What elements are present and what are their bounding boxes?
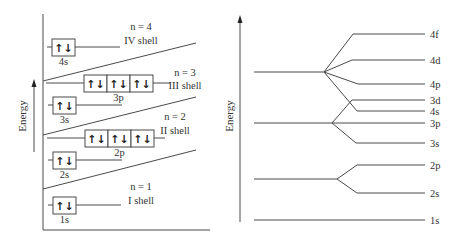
level-label-3p: 3p bbox=[430, 118, 441, 129]
electron-pair-icon: ↑↓ bbox=[109, 78, 127, 91]
left-energy-arrowhead-icon bbox=[32, 79, 37, 87]
orbital-4s: ↑↓ 4s bbox=[47, 39, 120, 67]
level-label-4f: 4f bbox=[430, 29, 439, 40]
level-label-4d: 4d bbox=[430, 55, 441, 66]
shell-3-name-label: III shell bbox=[169, 80, 202, 91]
orbital-label: 4s bbox=[59, 56, 68, 67]
orbital-label: 3s bbox=[60, 114, 69, 125]
level-label-3d: 3d bbox=[430, 95, 441, 106]
level-label-1s: 1s bbox=[430, 215, 439, 226]
orbital-3s: ↑↓ 3s bbox=[48, 97, 122, 125]
shell-4-n-label: n = 4 bbox=[130, 21, 152, 32]
level-label-4s: 4s bbox=[430, 106, 439, 117]
left-energy-label: Energy bbox=[16, 100, 28, 132]
shell-1-name-label: I shell bbox=[128, 195, 154, 206]
electron-pair-icon: ↑↓ bbox=[86, 78, 104, 91]
orbital-1s: ↑↓ 1s bbox=[48, 197, 121, 225]
electron-pair-icon: ↑↓ bbox=[55, 100, 73, 113]
shell-1-n-label: n = 1 bbox=[130, 181, 152, 192]
energy-level-diagrams: Energy n = 4 IV shell n = 3 III shell n … bbox=[0, 0, 460, 242]
orbital-label: 3p bbox=[113, 92, 124, 103]
orbital-2s: ↑↓ 2s bbox=[48, 152, 122, 180]
shell-4-name-label: IV shell bbox=[124, 35, 157, 46]
orbital-label: 2s bbox=[60, 169, 69, 180]
right-energy-arrowhead-icon bbox=[238, 15, 243, 23]
electron-pair-icon: ↑↓ bbox=[110, 133, 128, 146]
level-label-2p: 2p bbox=[430, 160, 441, 171]
shell-2-n-label: n = 2 bbox=[164, 111, 186, 122]
shell-2-name-label: II shell bbox=[160, 125, 190, 136]
level-label-2s: 2s bbox=[430, 188, 439, 199]
shell-3-n-label: n = 3 bbox=[174, 67, 196, 78]
electron-pair-icon: ↑↓ bbox=[132, 78, 150, 91]
electron-pair-icon: ↑↓ bbox=[55, 155, 73, 168]
electron-pair-icon: ↑↓ bbox=[133, 133, 151, 146]
right-energy-label: Energy bbox=[223, 100, 235, 132]
shell-diagram: Energy n = 4 IV shell n = 3 III shell n … bbox=[16, 14, 210, 230]
orbital-label: 1s bbox=[60, 214, 69, 225]
electron-pair-icon: ↑↓ bbox=[54, 42, 72, 55]
level-label-4p: 4p bbox=[430, 79, 441, 90]
level-label-3s: 3s bbox=[430, 138, 439, 149]
electron-pair-icon: ↑↓ bbox=[55, 200, 73, 213]
orbital-label: 2p bbox=[114, 147, 125, 158]
orbital-splitting-diagram: Energy 4f 4d 4p 3d 4s 3p 3s 2p 2s 1s bbox=[223, 15, 441, 226]
electron-pair-icon: ↑↓ bbox=[87, 133, 105, 146]
